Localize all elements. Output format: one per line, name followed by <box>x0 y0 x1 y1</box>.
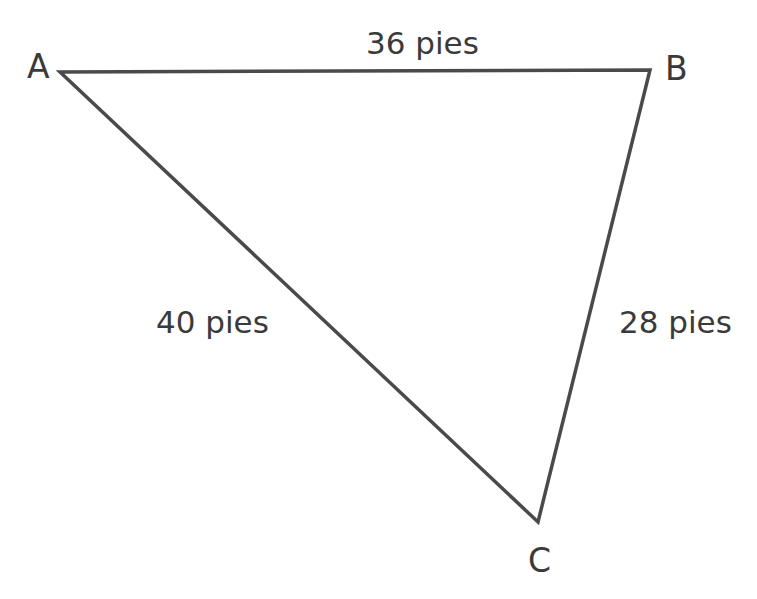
triangle-figure: A B C 36 pies 40 pies 28 pies <box>0 0 757 599</box>
vertex-label-c: C <box>528 544 551 577</box>
vertex-label-a: A <box>27 50 50 83</box>
triangle-outline <box>60 70 650 522</box>
side-label-ac: 40 pies <box>156 307 269 338</box>
vertex-label-b: B <box>665 52 688 85</box>
side-label-ab: 36 pies <box>366 28 479 59</box>
side-label-bc: 28 pies <box>619 307 732 338</box>
triangle-shape <box>0 0 757 599</box>
